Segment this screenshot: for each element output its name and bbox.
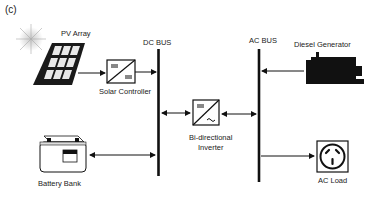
solar-controller-icon <box>107 60 135 83</box>
battery-bank-icon <box>40 136 86 172</box>
inverter-label-line2: Inverter <box>198 143 224 152</box>
inverter-label-line1: Bi-directional <box>189 133 233 142</box>
solar-controller-label: Solar Controller <box>99 87 152 96</box>
pv-array-label: PV Array <box>61 29 91 38</box>
dc-bus-label: DC BUS <box>143 38 171 47</box>
diesel-generator-label: Diesel Generator <box>294 40 351 49</box>
ac-load-label: AC Load <box>318 176 347 185</box>
battery-bank-label: Battery Bank <box>38 179 81 188</box>
sun-icon <box>16 24 46 54</box>
panel-label: (c) <box>5 4 17 15</box>
diesel-generator-icon <box>306 52 364 84</box>
inverter-icon <box>193 100 219 125</box>
hybrid-system-diagram: (c) PV Array <box>0 0 382 197</box>
ac-bus-label: AC BUS <box>249 36 277 45</box>
ac-outlet-icon <box>317 141 348 172</box>
pv-array-icon <box>33 43 85 85</box>
